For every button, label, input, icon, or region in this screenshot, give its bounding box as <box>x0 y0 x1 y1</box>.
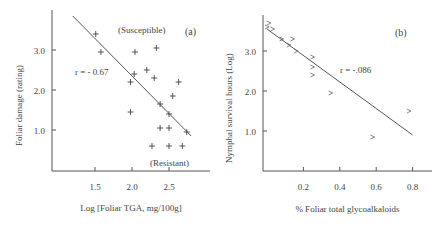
data-point <box>265 25 269 29</box>
data-point <box>157 125 163 131</box>
annotation-top: (Susceptible) <box>118 25 166 35</box>
data-point <box>93 31 99 37</box>
y-tick-label: 3.0 <box>245 47 257 57</box>
y-tick-label: 2.0 <box>34 86 46 96</box>
data-point <box>329 91 333 95</box>
regression-line <box>267 29 413 135</box>
annotation-bottom: (Resistant) <box>150 158 189 168</box>
x-tick-label: 2.0 <box>126 182 138 192</box>
annotation-r: r = -.086 <box>340 65 372 75</box>
data-point <box>166 125 172 131</box>
x-axis-label: % Foliar total glycoalkaloids <box>295 204 400 214</box>
data-point <box>179 143 185 149</box>
annotation-r: r = - 0.67 <box>75 67 109 77</box>
data-point <box>98 49 104 55</box>
y-axis-label: Foliar damage (rating) <box>14 65 24 146</box>
data-point <box>128 79 134 85</box>
x-tick-label: 0.4 <box>334 182 346 192</box>
data-point <box>294 49 298 53</box>
y-tick-label: 2.0 <box>245 87 257 97</box>
data-point <box>270 27 274 31</box>
panel-label: (a) <box>185 26 196 38</box>
data-point <box>371 135 375 139</box>
figure: 1.02.03.01.52.02.5Log [Foliar TGA, mg/10… <box>0 0 443 230</box>
data-point <box>407 109 411 113</box>
x-axis-label: Log [Foliar TGA, mg/100g] <box>80 203 181 213</box>
data-point <box>166 143 172 149</box>
y-tick-label: 3.0 <box>34 46 46 56</box>
data-point <box>176 79 182 85</box>
x-tick-label: 1.5 <box>89 182 101 192</box>
y-axis-label: Nymphal survival hours (Log) <box>224 53 234 163</box>
x-tick-label: 2.5 <box>163 182 175 192</box>
data-point <box>267 21 271 25</box>
panel-label: (b) <box>395 27 407 39</box>
data-point <box>149 143 155 149</box>
data-point <box>311 55 315 59</box>
data-point <box>151 75 157 81</box>
x-tick-label: 0.8 <box>407 182 419 192</box>
data-point <box>128 109 134 115</box>
chart-a: 1.02.03.01.52.02.5Log [Foliar TGA, mg/10… <box>14 10 210 213</box>
data-point <box>311 73 315 77</box>
data-point <box>132 49 138 55</box>
y-tick-label: 1.0 <box>245 127 257 137</box>
x-tick-label: 0.2 <box>298 182 309 192</box>
x-tick-label: 0.6 <box>371 182 383 192</box>
data-point <box>144 67 150 73</box>
y-tick-label: 1.0 <box>34 126 46 136</box>
data-point <box>170 93 176 99</box>
data-point <box>153 45 159 51</box>
data-point <box>311 65 315 69</box>
data-point <box>290 37 294 41</box>
chart-b: 1.02.03.00.20.40.60.8% Foliar total glyc… <box>224 15 432 214</box>
